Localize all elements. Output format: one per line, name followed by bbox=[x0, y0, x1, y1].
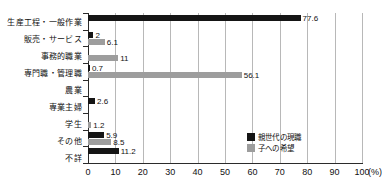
legend-item-1: 子への希望 bbox=[247, 142, 333, 153]
legend-swatch-icon-1 bbox=[247, 144, 255, 152]
x-tick-label-30: 30 bbox=[165, 167, 175, 177]
bar-value-0-5: 2.6 bbox=[97, 97, 108, 106]
legend-label-1: 子への希望 bbox=[258, 142, 294, 153]
x-tick-label-90: 90 bbox=[330, 167, 340, 177]
x-tick-label-60: 60 bbox=[247, 167, 257, 177]
bar-value-1-7: 8.5 bbox=[113, 137, 124, 146]
y-axis-tick-9 bbox=[83, 163, 88, 164]
bar-0-0 bbox=[88, 15, 301, 21]
x-axis-line bbox=[88, 163, 363, 164]
bar-0-1 bbox=[88, 32, 93, 38]
category-label-6: 学生 bbox=[0, 118, 82, 129]
category-label-5: 専業主婦 bbox=[0, 101, 82, 112]
bar-0-3 bbox=[88, 65, 90, 71]
bar-0-8 bbox=[88, 148, 119, 154]
bar-0-5 bbox=[88, 98, 95, 104]
bar-0-7 bbox=[88, 132, 104, 138]
category-label-8: 不詳 bbox=[0, 152, 82, 163]
x-axis-labels: 0102030405060708090100(%) bbox=[0, 167, 374, 183]
category-label-2: 事務的職業 bbox=[0, 50, 82, 61]
category-axis-labels: 生産工程・一般作業 販売・サービス 事務的職業 専門職・管理職 農業 専業主婦 … bbox=[0, 13, 82, 163]
bar-1-7 bbox=[88, 139, 111, 145]
bar-1-2 bbox=[88, 55, 118, 61]
legend-swatch-icon-0 bbox=[247, 133, 255, 141]
bar-value-0-0: 77.6 bbox=[303, 13, 319, 22]
x-tick-label-0: 0 bbox=[85, 167, 90, 177]
bar-value-0-8: 11.2 bbox=[121, 147, 136, 156]
gridline-100 bbox=[362, 13, 363, 163]
x-axis-unit-label: (%) bbox=[368, 167, 382, 177]
bar-1-3 bbox=[88, 72, 242, 78]
x-tick-label-70: 70 bbox=[275, 167, 285, 177]
bar-1-1 bbox=[88, 39, 105, 45]
category-label-0: 生産工程・一般作業 bbox=[0, 16, 82, 27]
x-tick-label-10: 10 bbox=[110, 167, 120, 177]
category-label-3: 専門職・管理職 bbox=[0, 67, 82, 78]
legend-item-0: 親世代の現職 bbox=[247, 131, 333, 142]
x-tick-label-40: 40 bbox=[193, 167, 203, 177]
category-label-1: 販売・サービス bbox=[0, 33, 82, 44]
chart-legend: 親世代の現職 子への希望 bbox=[247, 131, 333, 153]
bar-value-1-6: 1.2 bbox=[93, 120, 104, 129]
legend-label-0: 親世代の現職 bbox=[258, 131, 301, 142]
bar-value-1-1: 6.1 bbox=[107, 37, 118, 46]
bar-value-1-2: 11 bbox=[120, 54, 128, 63]
x-tick-label-50: 50 bbox=[220, 167, 230, 177]
category-label-7: その他 bbox=[0, 135, 82, 146]
bar-value-1-3: 56.1 bbox=[244, 70, 260, 79]
category-label-4: 農業 bbox=[0, 84, 82, 95]
x-tick-label-20: 20 bbox=[138, 167, 148, 177]
bar-1-6 bbox=[88, 122, 91, 128]
x-tick-label-80: 80 bbox=[302, 167, 312, 177]
